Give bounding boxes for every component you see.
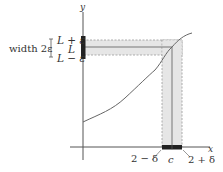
y-axis-label: y	[79, 2, 86, 12]
label-L-minus-epsilon: L − ε	[56, 52, 85, 64]
label-2-plus-delta: 2 + δ	[188, 154, 215, 165]
label-width-2-epsilon: width 2ε	[9, 43, 52, 54]
label-2-minus-delta: 2 − δ	[131, 153, 158, 164]
epsilon-delta-diagram: y x L + ε L L − ε width 2ε 2 − δ c 2 + δ	[0, 0, 223, 172]
label-c: c	[168, 154, 174, 165]
x-axis-label: x	[208, 144, 213, 154]
